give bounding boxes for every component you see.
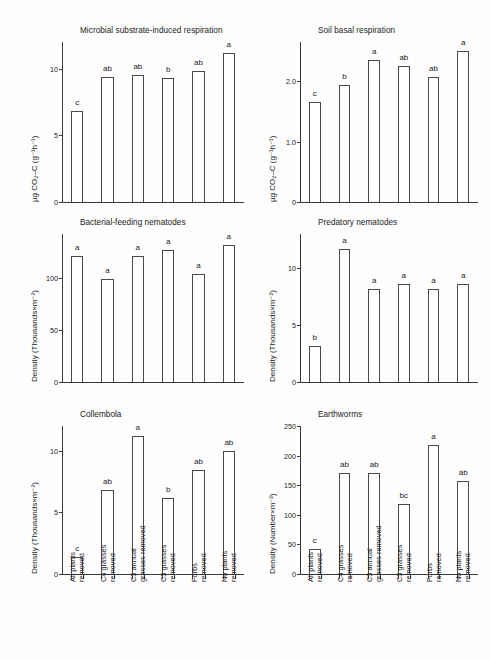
bar: [101, 279, 113, 382]
y-axis-line: [62, 42, 63, 202]
panel-title-soil-basal-respiration: Soil basal respiration: [318, 26, 395, 35]
x-axis-line: [300, 202, 478, 203]
x-category-label: All plantsremoved: [307, 552, 324, 582]
x-category-label-line: removed: [434, 553, 443, 582]
x-category-label-line: removed: [345, 545, 354, 582]
x-category-label: C4 grassesremoved: [100, 545, 117, 582]
bar: [132, 256, 144, 382]
significance-letter: a: [461, 38, 465, 47]
significance-letter: ab: [370, 460, 379, 469]
x-category-label-line: C4 grasses: [100, 545, 109, 582]
significance-letter: b: [166, 65, 170, 74]
y-tick-label: 100: [284, 510, 296, 519]
significance-letter: a: [431, 276, 435, 285]
y-tick: [297, 202, 300, 203]
bar: [398, 284, 410, 382]
y-tick-label: 10: [50, 446, 58, 455]
y-axis-line: [300, 234, 301, 382]
y-tick: [59, 69, 62, 70]
x-axis-line: [62, 202, 244, 203]
significance-letter: a: [196, 261, 200, 270]
bar: [457, 51, 469, 202]
bar: [132, 75, 144, 202]
significance-letter: a: [166, 237, 170, 246]
y-tick-label: 5: [54, 131, 58, 140]
panel-title-earthworms: Earthworms: [318, 410, 362, 419]
y-tick-label: 0: [292, 198, 296, 207]
bar: [398, 66, 410, 202]
significance-letter: a: [402, 271, 406, 280]
y-tick-label: 0: [54, 570, 58, 579]
figure-multi-panel-bar-charts: Microbial substrate-induced respiration0…: [0, 0, 490, 660]
significance-letter: a: [431, 432, 435, 441]
significance-letter: ab: [459, 468, 468, 477]
y-tick-label: 200: [284, 451, 296, 460]
bar: [368, 289, 380, 382]
x-category-label-line: removed: [78, 552, 87, 582]
bar: [223, 245, 235, 382]
significance-letter: a: [75, 243, 79, 252]
y-tick-label: 2.0: [286, 77, 296, 86]
significance-letter: a: [372, 276, 376, 285]
significance-letter: ab: [103, 64, 112, 73]
significance-letter: c: [313, 89, 317, 98]
x-axis-line: [300, 382, 478, 383]
y-tick: [297, 325, 300, 326]
y-axis-line: [300, 426, 301, 574]
x-category-label-line: Forbs: [426, 553, 435, 582]
significance-letter: b: [313, 333, 317, 342]
x-category-label: C3 grassesremoved: [160, 545, 177, 582]
bar: [428, 77, 440, 202]
x-category-label-line: C4 grasses: [337, 545, 346, 582]
significance-letter: ab: [429, 64, 438, 73]
bar: [368, 60, 380, 202]
y-axis-label-predatory-nematodes: Density (Thousands×m⁻²): [268, 290, 277, 382]
x-axis-line: [62, 382, 244, 383]
bar: [339, 85, 351, 202]
bar: [339, 249, 351, 382]
significance-letter: a: [461, 271, 465, 280]
y-tick-label: 0: [54, 378, 58, 387]
plot-area-bacterial-feeding-nematodes: 050100aaaaaa: [62, 234, 244, 382]
panel-title-predatory-nematodes: Predatory nematodes: [318, 218, 397, 227]
x-category-label: All plantsremoved: [69, 552, 86, 582]
y-tick: [59, 451, 62, 452]
y-tick: [59, 278, 62, 279]
y-tick: [59, 512, 62, 513]
x-category-label-line: removed: [169, 545, 178, 582]
significance-letter: a: [227, 40, 231, 49]
significance-letter: ab: [103, 477, 112, 486]
y-tick: [297, 426, 300, 427]
x-category-label-line: removed: [229, 551, 238, 582]
significance-letter: a: [105, 266, 109, 275]
bar: [457, 284, 469, 382]
significance-letter: a: [136, 243, 140, 252]
y-tick-label: 0: [292, 570, 296, 579]
panel-title-collembola: Collembola: [80, 410, 121, 419]
y-tick: [297, 574, 300, 575]
bar: [192, 274, 204, 382]
significance-letter: ab: [399, 53, 408, 62]
y-axis-label-earthworms: Density (Number×m⁻²): [268, 493, 277, 574]
y-tick-label: 50: [50, 325, 58, 334]
y-tick: [297, 268, 300, 269]
y-tick: [59, 135, 62, 136]
x-category-label-line: grasses removed: [375, 525, 384, 582]
bar: [309, 102, 321, 202]
y-tick: [297, 382, 300, 383]
y-axis-line: [62, 426, 63, 574]
x-category-label-line: removed: [108, 545, 117, 582]
bar: [101, 77, 113, 202]
x-category-label-line: removed: [464, 551, 473, 582]
y-tick: [297, 515, 300, 516]
y-axis-label-microbial-substrate-induced-respiration: µg CO₂–C (g⁻¹h⁻¹): [30, 136, 39, 202]
significance-letter: a: [342, 236, 346, 245]
bar: [162, 78, 174, 202]
significance-letter: a: [136, 423, 140, 432]
y-tick: [59, 202, 62, 203]
y-tick-label: 1.0: [286, 137, 296, 146]
x-category-label: Forbsremoved: [191, 553, 208, 582]
y-tick: [297, 485, 300, 486]
plot-area-microbial-substrate-induced-respiration: 0510cababbaba: [62, 42, 244, 202]
panel-title-bacterial-feeding-nematodes: Bacterial-feeding nematodes: [80, 218, 186, 227]
